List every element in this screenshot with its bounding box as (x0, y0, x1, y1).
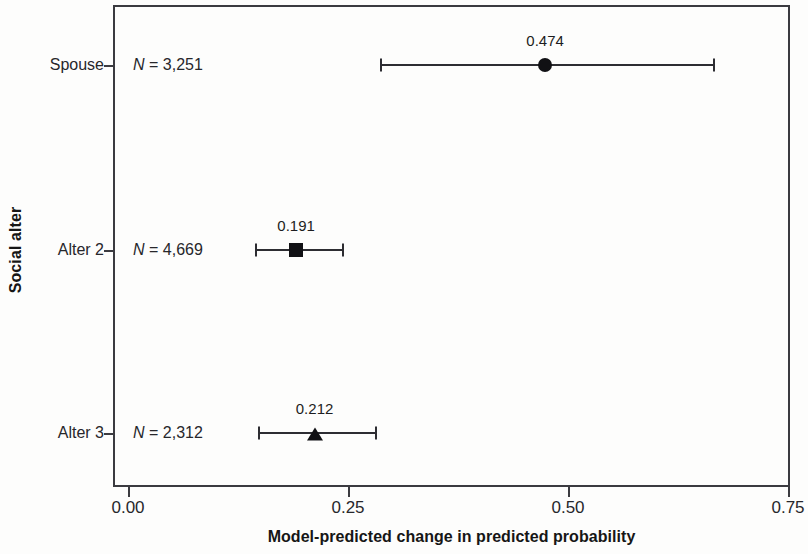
x-tick-mark (568, 487, 570, 497)
x-axis-title: Model-predicted change in predicted prob… (113, 528, 790, 546)
x-tick-label: 0.75 (771, 498, 804, 518)
data-point-value-label: 0.191 (277, 217, 315, 234)
y-tick-mark (104, 65, 113, 67)
x-tick-mark (788, 487, 790, 497)
x-tick-label: 0.50 (551, 498, 584, 518)
x-tick-mark (348, 487, 350, 497)
sample-size-label: N = 2,312 (133, 424, 203, 442)
x-tick-label: 0.25 (331, 498, 364, 518)
data-point-marker-square (289, 243, 303, 257)
plot-area (113, 5, 790, 487)
data-point-marker-triangle (307, 428, 323, 441)
y-tick-label-alter-2: Alter 2 (0, 241, 104, 259)
y-tick-label-spouse: Spouse (0, 56, 104, 74)
error-bar-cap-high (375, 427, 377, 440)
x-tick-mark (128, 487, 130, 497)
data-point-value-label: 0.212 (296, 400, 334, 417)
forest-plot-figure: Social alter SpouseAlter 2Alter 3 0.000.… (0, 0, 808, 554)
sample-size-label: N = 4,669 (133, 241, 203, 259)
sample-size-label: N = 3,251 (133, 56, 203, 74)
error-bar-cap-low (258, 427, 260, 440)
x-tick-label: 0.00 (111, 498, 144, 518)
error-bar-cap-low (255, 244, 257, 257)
y-tick-mark (104, 250, 113, 252)
error-bar-cap-high (713, 59, 715, 72)
data-point-value-label: 0.474 (526, 32, 564, 49)
error-bar-cap-low (380, 59, 382, 72)
y-tick-label-alter-3: Alter 3 (0, 424, 104, 442)
y-tick-mark (104, 433, 113, 435)
data-point-marker-circle (538, 58, 552, 72)
error-bar-cap-high (342, 244, 344, 257)
